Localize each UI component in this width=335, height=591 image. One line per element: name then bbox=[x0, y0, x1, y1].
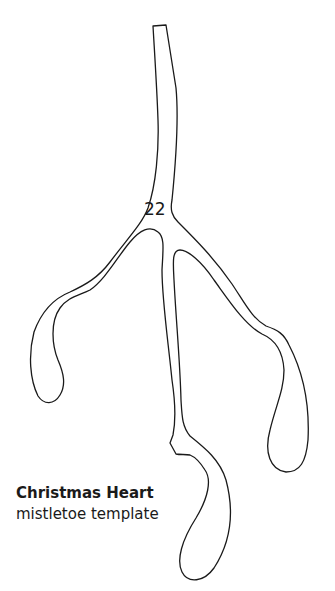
template-page: 22 Christmas Heart mistletoe template bbox=[0, 0, 335, 591]
template-number: 22 bbox=[144, 199, 166, 219]
caption: Christmas Heart mistletoe template bbox=[16, 483, 159, 525]
template-title: Christmas Heart bbox=[16, 483, 159, 504]
template-subtitle: mistletoe template bbox=[16, 504, 159, 525]
